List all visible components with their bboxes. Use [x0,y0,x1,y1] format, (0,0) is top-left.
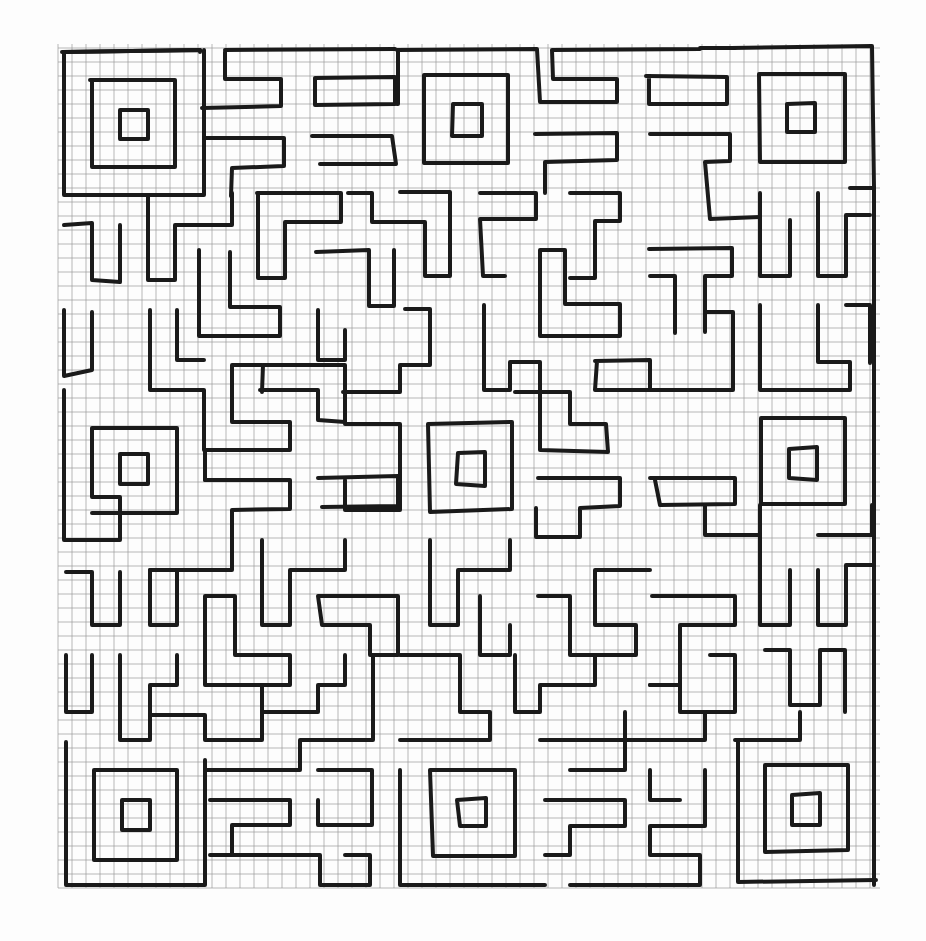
spiral-bottom-left-inner [122,800,150,830]
spiral-top-center-mid [424,75,508,163]
maze-wall [650,655,735,712]
maze-wall [484,305,608,452]
maze-wall [204,138,284,196]
outer-wall [62,50,200,52]
maze-wall [64,223,120,282]
maze-wall [150,480,290,570]
maze-page: Hand-drawn square maze on graph paper [0,0,926,941]
maze-wall [257,193,341,278]
outer-wall [731,46,874,188]
maze-wall [540,250,620,336]
maze-wall [348,192,450,276]
maze-wall [650,134,760,219]
maze-wall [536,478,620,537]
spiral-bottom-right-outer [738,740,876,882]
maze-wall [64,310,92,376]
maze-wall [232,855,370,885]
maze-wall [765,650,845,712]
maze-wall [120,655,177,740]
maze-wall [316,250,394,306]
maze-drawing [0,0,926,941]
maze-wall [760,193,790,276]
maze-wall [480,596,510,655]
maze-wall [318,310,345,360]
spiral-top-center-outer [397,50,398,104]
maze-wall [318,476,398,507]
spiral-bottom-center-inner [457,798,486,826]
spiral-bottom-right-inner [792,793,820,825]
maze-wall [595,360,650,390]
maze-wall [538,570,650,655]
graph-paper-grid [58,44,880,888]
maze-wall [210,800,290,855]
maze-wall [480,193,536,276]
maze-wall [818,505,872,535]
maze-wall [735,712,800,740]
spiral-middle-right-mid [761,418,845,504]
maze-wall [260,365,345,422]
maze-wall [205,596,290,685]
maze-wall [343,309,430,392]
maze-wall [649,248,732,332]
maze-wall [760,305,850,390]
maze-wall [650,312,733,390]
maze-wall [705,505,760,535]
maze-wall [650,276,675,333]
maze-wall [150,655,345,740]
outer-wall [225,49,395,50]
spiral-top-center-inner [452,104,482,136]
maze-wall [315,77,395,105]
maze-wall [818,193,870,276]
spiral-middle-center-mid [428,422,512,512]
maze-wall [262,540,345,625]
maze-wall [345,424,400,510]
spiral-top-left-mid [90,80,175,167]
maze-wall [515,655,595,712]
maze-wall [570,193,620,278]
spiral-bottom-left-mid [94,770,177,860]
maze-wall [818,565,872,625]
maze-wall [150,570,177,625]
maze-wall [625,712,705,740]
spiral-bottom-center-mid [430,770,515,856]
maze-wall [650,596,735,685]
spiral-top-right-inner [787,103,815,132]
maze-wall [545,800,625,855]
maze-wall [400,655,490,740]
maze-wall [650,770,680,800]
spiral-middle-left-inner [120,454,148,484]
maze-wall [540,740,625,770]
maze-wall [148,193,232,280]
spiral-middle-right-inner [789,447,817,480]
spiral-middle-center-inner [456,452,485,486]
spiral-bottom-right-mid [765,765,848,852]
outer-wall [64,50,204,195]
spiral-top-left-inner [120,110,148,139]
maze-wall [430,540,510,625]
maze-wall [202,52,281,108]
maze-wall [66,655,92,712]
maze-wall [318,596,398,655]
maze-wall [318,770,372,825]
